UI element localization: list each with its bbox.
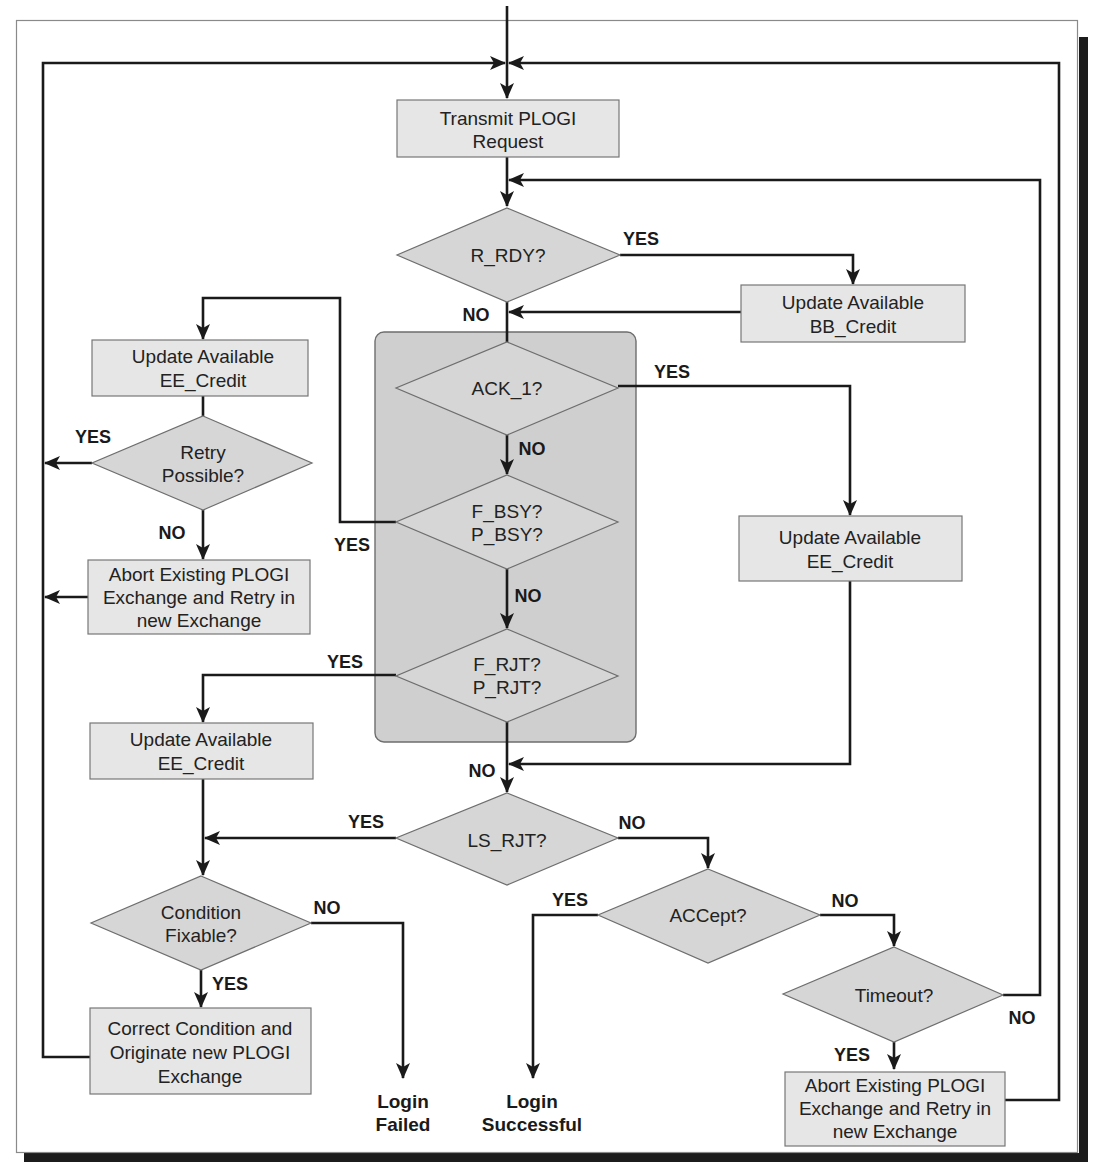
node-text: EE_Credit — [158, 753, 245, 775]
edge-label: NO — [469, 761, 496, 781]
frame-shadow-right — [1079, 37, 1088, 1162]
node-text: Abort Existing PLOGI — [805, 1075, 986, 1096]
edge-label: YES — [552, 890, 588, 910]
plogi-flowchart: Transmit PLOGI Request R_RDY? Update Ava… — [0, 0, 1099, 1175]
transmit-plogi-request-box: Transmit PLOGI Request — [397, 100, 619, 157]
node-text: F_RJT? — [473, 654, 541, 676]
edge-label: NO — [515, 586, 542, 606]
terminal-text: Successful — [482, 1114, 582, 1135]
edge-label: YES — [75, 427, 111, 447]
node-text: new Exchange — [833, 1121, 958, 1142]
terminal-text: Failed — [376, 1114, 431, 1135]
node-text: ACK_1? — [472, 378, 543, 400]
node-text: Update Available — [132, 346, 274, 367]
edge-label: NO — [832, 891, 859, 911]
node-text: Update Available — [130, 729, 272, 750]
node-text: Originate new PLOGI — [110, 1042, 291, 1063]
node-text: EE_Credit — [160, 370, 247, 392]
node-text: Exchange and Retry in — [103, 587, 295, 608]
node-text: F_BSY? — [472, 501, 543, 523]
abort-existing-plogi-right-box: Abort Existing PLOGI Exchange and Retry … — [785, 1072, 1005, 1146]
node-text: P_BSY? — [471, 524, 543, 546]
node-text: Possible? — [162, 465, 244, 486]
node-text: Update Available — [779, 527, 921, 548]
edge-label: NO — [619, 813, 646, 833]
terminal-text: Login — [506, 1091, 558, 1112]
update-ee-credit-mid-left-box: Update Available EE_Credit — [90, 723, 313, 779]
node-text: Exchange — [158, 1066, 243, 1087]
node-text: BB_Credit — [810, 316, 897, 338]
node-text: Condition — [161, 902, 241, 923]
terminal-text: Login — [377, 1091, 429, 1112]
node-text: Correct Condition and — [108, 1018, 293, 1039]
edge-label: NO — [314, 898, 341, 918]
abort-existing-plogi-left-box: Abort Existing PLOGI Exchange and Retry … — [88, 560, 310, 634]
frame-shadow-bottom — [24, 1153, 1088, 1162]
edge-label: YES — [623, 229, 659, 249]
edge-label: NO — [519, 439, 546, 459]
node-text: Transmit PLOGI — [440, 108, 577, 129]
update-ee-credit-top-left-box: Update Available EE_Credit — [92, 340, 308, 396]
node-text: LS_RJT? — [467, 830, 546, 852]
edge-label: NO — [463, 305, 490, 325]
edge-label: YES — [327, 652, 363, 672]
node-text: R_RDY? — [471, 245, 546, 267]
node-text: Exchange and Retry in — [799, 1098, 991, 1119]
node-text: P_RJT? — [473, 677, 542, 699]
edge-label: YES — [654, 362, 690, 382]
node-text: Request — [473, 131, 544, 152]
node-text: Timeout? — [855, 985, 934, 1006]
edge-label: NO — [159, 523, 186, 543]
edge-label: YES — [348, 812, 384, 832]
update-ee-credit-right-box: Update Available EE_Credit — [739, 516, 962, 581]
node-text: new Exchange — [137, 610, 262, 631]
correct-condition-box: Correct Condition and Originate new PLOG… — [90, 1008, 311, 1094]
edge-label: YES — [834, 1045, 870, 1065]
node-text: Abort Existing PLOGI — [109, 564, 290, 585]
node-text: Update Available — [782, 292, 924, 313]
node-text: EE_Credit — [807, 551, 894, 573]
node-text: Retry — [180, 442, 226, 463]
edge-label: YES — [334, 535, 370, 555]
edge-label: YES — [212, 974, 248, 994]
node-text: ACCept? — [669, 905, 746, 926]
update-bb-credit-box: Update Available BB_Credit — [741, 285, 965, 342]
edge-label: NO — [1009, 1008, 1036, 1028]
node-text: Fixable? — [165, 925, 237, 946]
